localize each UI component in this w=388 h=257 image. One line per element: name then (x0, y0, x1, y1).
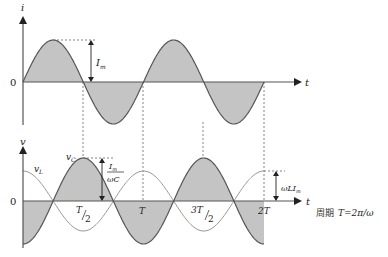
vl-label: vL (34, 164, 43, 175)
voltage-origin-label: 0 (10, 196, 16, 207)
svg-text:T: T (76, 205, 83, 215)
tick-half-period: T 2 (76, 205, 91, 224)
svg-text:2: 2 (208, 214, 214, 224)
voltage-x-label: t (306, 196, 311, 207)
period-caption: 周期T=2π/ω (316, 208, 374, 218)
vl-amp-label: ωLIm (281, 184, 301, 194)
current-origin-label: 0 (10, 77, 16, 88)
tick-period: T (139, 206, 146, 216)
vc-amp-denominator: ωC (107, 175, 120, 184)
vc-amp-numerator: Im (108, 162, 117, 172)
tick-two-period: 2T (257, 206, 271, 216)
vc-label: vC (66, 152, 76, 163)
tick-three-half-period: 3T 2 (191, 205, 214, 224)
current-y-label: i (21, 2, 24, 13)
current-x-label: t (305, 77, 310, 88)
voltage-y-label: v (20, 136, 26, 147)
im-label: Im (95, 57, 106, 70)
svg-text:3T: 3T (191, 205, 204, 215)
svg-text:2: 2 (85, 214, 91, 224)
current-plot (23, 18, 300, 125)
voltage-plot (23, 148, 300, 248)
waveform-diagram: i t 0 Im v t 0 vC vL Im ωC ωLIm T 2 (0, 0, 388, 257)
